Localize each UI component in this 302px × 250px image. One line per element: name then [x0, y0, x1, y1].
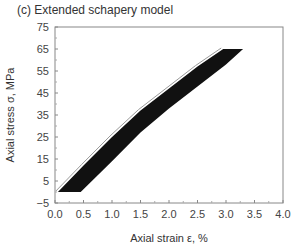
y-tick-label: 65: [37, 43, 49, 55]
y-tick-label: 75: [37, 21, 49, 33]
x-tick-label: 1.0: [104, 208, 119, 220]
chart-canvas: 756555453525155−5 0.00.51.01.52.02.53.03…: [0, 0, 302, 250]
x-tick-label: 0.0: [47, 208, 62, 220]
x-tick-label: 2.5: [190, 208, 205, 220]
y-tick-label: 15: [37, 153, 49, 165]
y-axis-label: Axial stress σ, MPa: [4, 67, 16, 163]
x-tick-label: 4.0: [275, 208, 290, 220]
data-band: [58, 49, 243, 192]
y-tick-label: 5: [43, 175, 49, 187]
x-tick-label: 3.0: [218, 208, 233, 220]
y-tick-label: 35: [37, 109, 49, 121]
y-tick-label: 25: [37, 131, 49, 143]
x-tick-label: 0.5: [76, 208, 91, 220]
x-axis-label: Axial strain ε, %: [130, 232, 208, 244]
x-axis: 0.00.51.01.52.02.53.03.54.0: [47, 200, 290, 220]
y-tick-label: 55: [37, 65, 49, 77]
y-tick-label: 45: [37, 87, 49, 99]
x-tick-label: 3.5: [247, 208, 262, 220]
x-tick-label: 2.0: [161, 208, 176, 220]
x-tick-label: 1.5: [133, 208, 148, 220]
